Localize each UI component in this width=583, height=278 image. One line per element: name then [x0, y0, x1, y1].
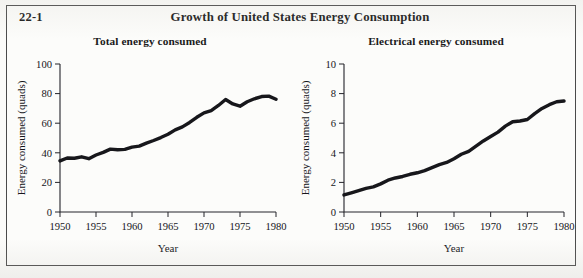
- chart-plot-electrical-energy: 02468101950195519601965197019751980YearE…: [296, 50, 576, 258]
- x-tick-label: 1965: [443, 221, 464, 232]
- chart-panel-total-energy: Total energy consumed 020406080100195019…: [12, 30, 288, 258]
- y-tick-label: 100: [36, 59, 52, 70]
- x-tick-label: 1960: [121, 221, 142, 232]
- x-axis-title: Year: [444, 242, 465, 254]
- x-tick-label: 1955: [85, 221, 106, 232]
- y-tick-label: 4: [331, 148, 337, 159]
- y-tick-label: 40: [41, 148, 52, 159]
- y-tick-label: 2: [331, 177, 336, 188]
- y-tick-label: 8: [331, 88, 336, 99]
- y-tick-label: 0: [331, 207, 336, 218]
- y-tick-label: 10: [325, 59, 336, 70]
- y-tick-label: 80: [41, 88, 52, 99]
- y-tick-label: 0: [47, 207, 52, 218]
- y-tick-label: 60: [41, 118, 52, 129]
- y-axis-title: Energy consumed (quads): [299, 80, 312, 195]
- x-tick-label: 1975: [517, 221, 538, 232]
- figure-container: 22-1 Growth of United States Energy Cons…: [0, 0, 583, 278]
- y-tick-label: 6: [331, 118, 336, 129]
- data-curve-1: [344, 101, 564, 195]
- chart-panel-electrical-energy: Electrical energy consumed 0246810195019…: [296, 30, 576, 258]
- x-tick-label: 1970: [480, 221, 501, 232]
- chart-plot-total-energy: 0204060801001950195519601965197019751980…: [12, 50, 288, 258]
- x-tick-label: 1980: [553, 221, 574, 232]
- figure-number: 22-1: [19, 10, 43, 25]
- data-curve-0: [60, 96, 276, 161]
- x-tick-label: 1970: [193, 221, 214, 232]
- y-tick-label: 20: [41, 177, 52, 188]
- chart-title-electrical-energy: Electrical energy consumed: [296, 35, 576, 47]
- chart-axes-0: [60, 64, 276, 212]
- x-tick-label: 1955: [370, 221, 391, 232]
- x-tick-label: 1950: [49, 221, 70, 232]
- figure-title: Growth of United States Energy Consumpti…: [130, 10, 470, 25]
- x-tick-label: 1950: [333, 221, 354, 232]
- x-tick-label: 1975: [229, 221, 250, 232]
- x-axis-title: Year: [158, 242, 179, 254]
- x-tick-label: 1980: [265, 221, 286, 232]
- chart-title-total-energy: Total energy consumed: [12, 35, 288, 47]
- chart-axes-1: [344, 64, 564, 212]
- y-axis-title: Energy consumed (quads): [15, 80, 28, 195]
- x-tick-label: 1960: [407, 221, 428, 232]
- x-tick-label: 1965: [157, 221, 178, 232]
